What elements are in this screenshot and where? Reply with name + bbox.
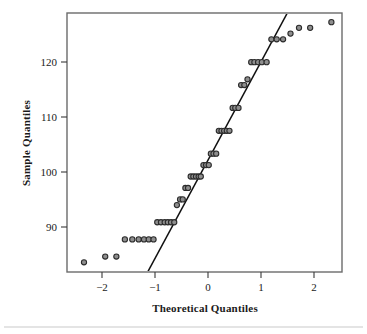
data-point <box>103 254 108 259</box>
x-tick-label-neg2: −2 <box>96 281 108 293</box>
data-point <box>130 237 135 242</box>
x-tick-label-neg1: −1 <box>149 281 161 293</box>
data-point <box>296 25 301 30</box>
y-tick-label-110: 110 <box>41 111 58 123</box>
data-point <box>114 254 119 259</box>
data-point <box>122 237 127 242</box>
data-point <box>329 20 334 25</box>
y-tick-label-100: 100 <box>41 166 58 178</box>
x-tick-label-1: 1 <box>258 281 264 293</box>
data-point <box>280 37 285 42</box>
data-point <box>288 31 293 36</box>
x-axis-tick-labels: −2 −1 0 1 2 <box>96 281 317 293</box>
data-point <box>245 77 250 82</box>
x-tick-label-0: 0 <box>205 281 211 293</box>
data-point <box>242 82 247 87</box>
data-point <box>308 25 313 30</box>
x-axis-ticks <box>102 272 314 278</box>
data-point <box>151 237 156 242</box>
data-point <box>198 174 203 179</box>
y-axis-ticks <box>61 62 67 227</box>
y-tick-label-90: 90 <box>46 221 58 233</box>
x-axis-title: Theoretical Quantiles <box>152 302 258 314</box>
x-tick-label-2: 2 <box>311 281 317 293</box>
qq-plot-figure: 120 110 100 90 −2 −1 0 1 2 Theoretical Q… <box>0 0 367 334</box>
data-point <box>180 197 185 202</box>
data-point <box>264 60 269 65</box>
plot-frame <box>67 13 342 272</box>
y-axis-tick-labels: 120 110 100 90 <box>41 56 58 233</box>
data-point <box>274 37 279 42</box>
data-point <box>81 260 86 265</box>
data-point <box>174 203 179 208</box>
data-point <box>227 128 232 133</box>
y-axis-title: Sample Quantiles <box>20 99 32 186</box>
data-point <box>269 37 274 42</box>
data-point <box>185 185 190 190</box>
data-point <box>172 220 177 225</box>
y-tick-label-120: 120 <box>41 56 58 68</box>
data-point <box>214 151 219 156</box>
data-point <box>136 237 141 242</box>
qq-plot-canvas: 120 110 100 90 −2 −1 0 1 2 Theoretical Q… <box>0 0 367 334</box>
data-point <box>206 162 211 167</box>
data-point <box>236 105 241 110</box>
